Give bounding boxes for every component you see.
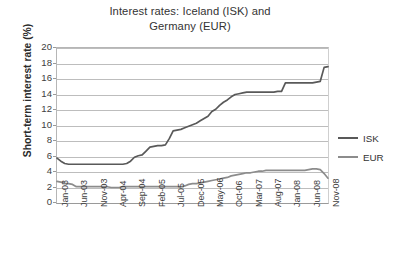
chart-title-line-2: Germany (EUR)	[40, 19, 340, 34]
chart-legend: ISK EUR	[338, 130, 384, 168]
x-tick-label: Sep-04	[137, 179, 147, 207]
y-tick-label: 4	[12, 166, 52, 176]
x-tick-label: Jul-05	[176, 183, 186, 207]
x-tick-label: Nov-03	[99, 179, 109, 207]
x-tick-label: Jan-03	[60, 180, 70, 207]
y-tick-label: 16	[12, 73, 52, 83]
y-tick-label: 10	[12, 120, 52, 130]
x-tick-label: Mar-07	[254, 179, 264, 207]
y-tick-label: 18	[12, 58, 52, 68]
x-tick-label: Aug-07	[273, 179, 283, 207]
legend-item-eur: EUR	[338, 149, 384, 165]
x-tick-label: Apr-04	[118, 181, 128, 207]
plot-area	[56, 47, 329, 204]
legend-swatch-eur	[338, 156, 358, 158]
chart-title-line-1: Interest rates: Iceland (ISK) and	[40, 4, 340, 19]
y-tick-label: 2	[12, 182, 52, 192]
legend-label-isk: ISK	[363, 133, 379, 144]
y-tick-label: 6	[12, 151, 52, 161]
x-tick-label: Nov-08	[331, 179, 341, 207]
x-tick-label: Oct-06	[234, 181, 244, 207]
y-tick-label: 12	[12, 104, 52, 114]
x-tick-label: Feb-05	[157, 179, 167, 207]
legend-label-eur: EUR	[363, 152, 384, 163]
y-tick-label: 14	[12, 89, 52, 99]
chart-title: Interest rates: Iceland (ISK) and German…	[40, 4, 340, 34]
chart-container: Interest rates: Iceland (ISK) and German…	[0, 0, 408, 262]
x-tick-label: Jun-03	[79, 180, 89, 207]
x-tick-label: May-06	[215, 178, 225, 207]
legend-swatch-isk	[338, 137, 358, 139]
legend-item-isk: ISK	[338, 130, 384, 146]
y-tick-label: 8	[12, 135, 52, 145]
y-tick-label: 0	[12, 197, 52, 207]
series-line-eur	[57, 169, 328, 188]
x-tick-label: Dec-05	[196, 179, 206, 207]
y-tick-label: 20	[12, 42, 52, 52]
x-tick-label: Jun-08	[312, 180, 322, 207]
series-line-isk	[57, 67, 328, 165]
series-lines	[57, 48, 328, 203]
x-tick-label: Jan-08	[292, 180, 302, 207]
